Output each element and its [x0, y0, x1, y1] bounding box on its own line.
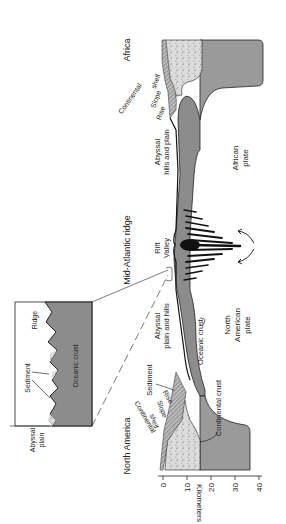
label-africa: Africa — [122, 38, 132, 61]
africa-continental-block — [200, 40, 263, 120]
axis-tick-20: 20 — [207, 482, 216, 491]
mid-atlantic-ridge-cross-section: 0 10 20 30 40 Kilometers Ridge Sediment … — [0, 0, 286, 524]
axis-title: Kilometers — [195, 484, 204, 522]
na-continental-block — [200, 396, 250, 470]
inset-abyssal-label-1: Abyssal — [29, 427, 37, 452]
label-na-plate-1: North — [223, 315, 232, 335]
cross-section — [160, 40, 263, 470]
label-africa-abyssal-1: Abyssal — [153, 139, 162, 166]
label-african-plate-2: plate — [241, 149, 250, 167]
depth-axis: 0 10 20 30 40 Kilometers — [158, 476, 264, 522]
label-rift-2: Valley — [162, 238, 171, 258]
label-africa-shelf-2: shelf — [150, 73, 162, 89]
inset-sediment-label: Sediment — [24, 363, 31, 393]
label-na-sediment: Sediment — [145, 363, 154, 396]
inset-abyssal-label-2: plain — [38, 433, 46, 448]
axis-tick-30: 30 — [231, 482, 240, 491]
label-african-plate-1: African — [231, 146, 240, 171]
label-na-plate-3: plate — [243, 316, 252, 334]
label-na-continental-crust: Continental crust — [214, 379, 223, 436]
label-africa-abyssal-2: hills and plain — [162, 129, 171, 174]
inset-oceanic-crust-label: Oceanic crust — [72, 345, 79, 388]
label-mid-atlantic-ridge: Mid-Atlantic ridge — [122, 215, 132, 285]
inset-ridge-label: Ridge — [31, 311, 39, 329]
axis-tick-40: 40 — [255, 482, 264, 491]
label-north-america: North America — [122, 417, 132, 474]
axis-tick-0: 0 — [159, 482, 168, 487]
label-na-abyssal-1: Abyssal — [153, 313, 162, 340]
label-na-oceanic-crust: Oceanic crust — [196, 318, 205, 365]
inset-detail: Ridge Sediment Oceanic crust Abyssal pla… — [10, 302, 92, 452]
label-africa-rise: Rise — [155, 105, 166, 121]
label-na-abyssal-2: plain and hills — [162, 303, 171, 349]
label-africa-shelf-1: Continental — [117, 82, 143, 115]
label-na-plate-2: American — [233, 308, 242, 342]
label-rift-1: Rift — [153, 241, 162, 253]
axis-tick-10: 10 — [183, 482, 192, 491]
